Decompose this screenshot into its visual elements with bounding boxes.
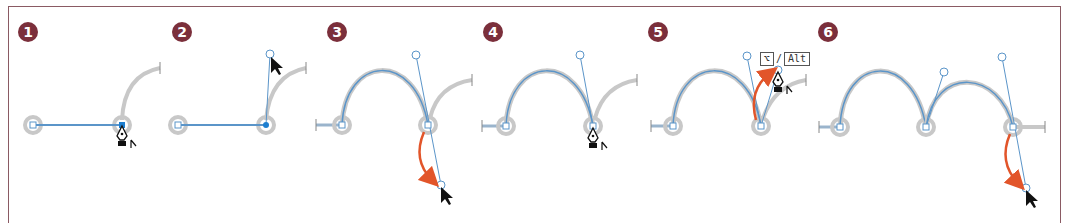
- step-5-artwork: [651, 52, 806, 134]
- step-3-artwork: [316, 51, 472, 205]
- step-2-artwork: [170, 50, 306, 133]
- pen-tool-illustration: [0, 0, 1070, 223]
- step-1-artwork: [25, 62, 160, 148]
- step-4-artwork: [482, 51, 637, 150]
- step-6-artwork: [819, 53, 1045, 208]
